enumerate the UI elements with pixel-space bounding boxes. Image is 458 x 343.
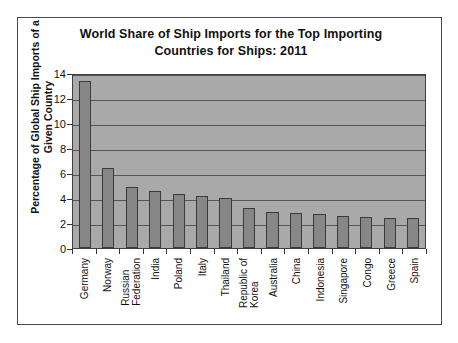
x-tick-label: Germany (78, 258, 89, 299)
x-tick-label: Spain (409, 258, 420, 284)
bar (126, 187, 138, 248)
y-tick-label: 10 (54, 118, 66, 130)
plot-area (72, 74, 426, 249)
y-tick-label: 6 (60, 168, 66, 180)
x-label-cell: Greece (379, 256, 403, 322)
bar (173, 194, 185, 248)
bar-series (73, 75, 425, 248)
chart-frame: World Share of Ship Imports for the Top … (17, 17, 442, 325)
x-label-cell: India (143, 256, 167, 322)
x-label-cell: Singapore (332, 256, 356, 322)
x-tick-mark (190, 249, 191, 254)
y-tick-label: 12 (54, 93, 66, 105)
x-tick-label: Italy (196, 258, 207, 276)
bar (149, 191, 161, 249)
x-tick-mark (166, 249, 167, 254)
y-axis-ticks: 02468101214 (48, 74, 72, 249)
x-tick-label-line: Greece (385, 258, 396, 291)
x-tick-mark (96, 249, 97, 254)
bar-cell (73, 75, 96, 248)
x-label-cell: Germany (72, 256, 96, 322)
y-tick-label: 0 (60, 243, 66, 255)
x-tick-label: Norway (102, 258, 113, 292)
bar (102, 168, 114, 248)
x-label-cell: Australia (261, 256, 285, 322)
bar (384, 218, 396, 248)
x-tick-label-line: Spain (409, 258, 420, 284)
x-label-cell: Thailand (214, 256, 238, 322)
x-label-cell: Norway (96, 256, 120, 322)
x-tick-mark (332, 249, 333, 254)
bar-cell (167, 75, 190, 248)
x-tick-label: Indonesia (314, 258, 325, 301)
bar-cell (378, 75, 401, 248)
x-tick-label: Poland (173, 258, 184, 289)
x-tick-label: China (291, 258, 302, 284)
y-tick-label: 4 (60, 193, 66, 205)
x-tick-label-line: Singapore (338, 258, 349, 304)
x-tick-mark (72, 249, 73, 254)
x-label-cell: Italy (190, 256, 214, 322)
bar-cell (284, 75, 307, 248)
x-tick-mark (284, 249, 285, 254)
x-tick-label-line: Australia (267, 258, 278, 297)
x-tick-mark (426, 249, 427, 254)
x-tick-label-line: Germany (78, 258, 89, 299)
x-tick-mark (143, 249, 144, 254)
x-tick-label-line: Italy (196, 258, 207, 276)
x-tick-label-line: India (149, 258, 160, 280)
chart-title-line-2: Countries for Ships: 2011 (44, 43, 418, 60)
x-tick-mark (214, 249, 215, 254)
bar-cell (96, 75, 119, 248)
x-tick-label-line: China (291, 258, 302, 284)
bar (360, 217, 372, 248)
bar-cell (190, 75, 213, 248)
x-tick-label: Singapore (338, 258, 349, 304)
chart-title-line-1: World Share of Ship Imports for the Top … (44, 26, 418, 43)
y-axis-title-line-1: Percentage of Global Ship Imports of a (29, 17, 42, 217)
x-tick-mark (402, 249, 403, 254)
x-label-cell: Indonesia (308, 256, 332, 322)
bar-cell (331, 75, 354, 248)
bar-cell (214, 75, 237, 248)
x-label-cell: China (284, 256, 308, 322)
x-axis-labels: GermanyNorwayRussianFederationIndiaPolan… (72, 256, 426, 322)
x-tick-label-line: Indonesia (314, 258, 325, 301)
x-tick-label: RussianFederation (120, 258, 142, 306)
bar-cell (308, 75, 331, 248)
bar (290, 213, 302, 248)
bar-cell (261, 75, 284, 248)
y-tick-label: 2 (60, 218, 66, 230)
x-tick-label-line: Federation (131, 258, 142, 306)
y-tick-label: 8 (60, 143, 66, 155)
x-tick-label: Congo (361, 258, 372, 287)
x-label-cell: Poland (166, 256, 190, 322)
x-tick-label-line: Korea (249, 258, 260, 308)
bar-cell (143, 75, 166, 248)
bar (407, 218, 419, 248)
x-label-cell: RussianFederation (119, 256, 143, 322)
x-tick-mark (355, 249, 356, 254)
bar (219, 198, 231, 248)
chart-title: World Share of Ship Imports for the Top … (44, 26, 418, 60)
bar-cell (355, 75, 378, 248)
x-tick-label: Australia (267, 258, 278, 297)
x-tick-label-line: Congo (361, 258, 372, 287)
bar-cell (120, 75, 143, 248)
x-tick-label: Greece (385, 258, 396, 291)
bar (243, 208, 255, 248)
x-tick-label: Thailand (220, 258, 231, 296)
x-axis-ticks (72, 249, 426, 255)
bar (337, 216, 349, 249)
x-tick-mark (119, 249, 120, 254)
x-tick-mark (379, 249, 380, 254)
x-tick-label-line: Norway (102, 258, 113, 292)
bar-cell (237, 75, 260, 248)
x-tick-mark (261, 249, 262, 254)
x-label-cell: Spain (402, 256, 426, 322)
x-tick-mark (237, 249, 238, 254)
bar (313, 214, 325, 248)
x-tick-label-line: Thailand (220, 258, 231, 296)
x-tick-label-line: Republic of (238, 258, 249, 308)
x-tick-label: India (149, 258, 160, 280)
